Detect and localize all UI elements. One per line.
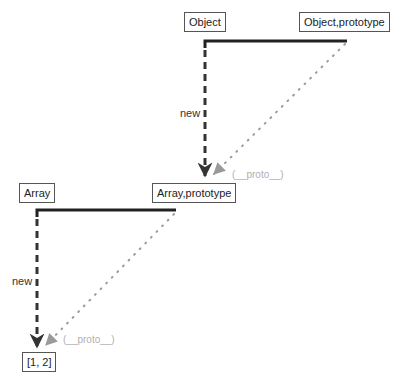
prototype-chain-diagram: Object Object,prototype Array Array,prot… xyxy=(0,0,398,385)
array-new-label: new xyxy=(12,275,32,287)
node-array: Array xyxy=(19,183,55,203)
object-bracket-line xyxy=(205,41,347,48)
object-proto-arrow xyxy=(214,44,345,174)
array-proto-label: (__proto__) xyxy=(63,334,115,346)
node-array-instance: [1, 2] xyxy=(22,352,56,372)
array-proto-arrow xyxy=(46,214,174,345)
object-new-label: new xyxy=(180,107,200,119)
node-array-prototype: Array,prototype xyxy=(152,183,236,203)
node-object-prototype: Object,prototype xyxy=(299,12,390,32)
node-object: Object xyxy=(184,12,226,32)
array-bracket-line xyxy=(37,210,176,217)
object-proto-label: (__proto__) xyxy=(232,169,284,181)
